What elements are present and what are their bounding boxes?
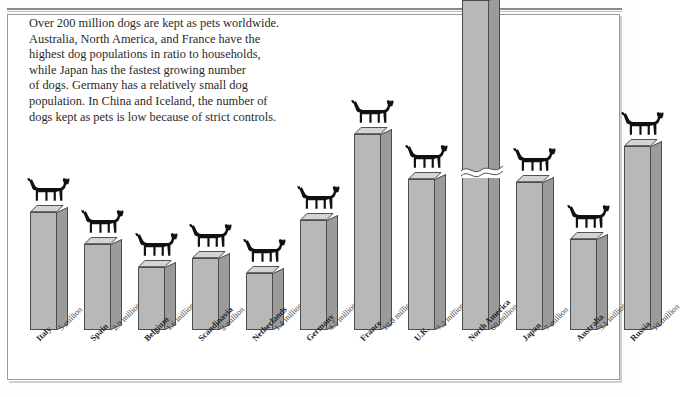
bar-side-face (435, 174, 446, 330)
dog-silhouette-svg (620, 112, 664, 139)
chart-title: DOG OWNERSHIP WORLDWIDE (0, 0, 636, 4)
dog-icon (242, 239, 286, 266)
dog-silhouette-svg (80, 210, 124, 237)
title-rule-thin (7, 11, 622, 12)
dog-silhouette-svg (566, 205, 610, 232)
bar-front-face (300, 220, 327, 330)
dog-icon (512, 148, 556, 175)
bar-front-face (624, 146, 651, 330)
chart-title-clip: DOG OWNERSHIP WORLDWIDE (0, 0, 636, 7)
dog-icon (26, 178, 70, 205)
dog-icon (296, 186, 340, 213)
frame-shadow-right (620, 16, 622, 382)
bar-side-face (381, 129, 392, 330)
title-rule (7, 8, 622, 10)
dog-silhouette-svg (350, 100, 394, 127)
bar-front-face (354, 134, 381, 330)
dog-silhouette-svg (26, 178, 70, 205)
bar-front-face (84, 244, 111, 330)
dog-silhouette-svg (404, 145, 448, 172)
dog-silhouette-svg (242, 239, 286, 266)
bar-side-face (543, 177, 554, 330)
dog-silhouette-svg (134, 233, 178, 260)
dog-silhouette-svg (296, 186, 340, 213)
bar-front-face (516, 182, 543, 330)
dog-icon (566, 205, 610, 232)
bar-side-face (651, 141, 662, 330)
dog-icon (620, 112, 664, 139)
dog-icon (80, 210, 124, 237)
bar-chart: Italy5 millionSpain2.9 millionBelgium1.6… (8, 15, 619, 379)
frame-shadow-bottom (9, 381, 622, 383)
bar-front-face (30, 212, 57, 330)
dog-icon (350, 100, 394, 127)
axis-break-marker (461, 162, 501, 175)
bar-side-face (57, 207, 68, 330)
dog-icon (188, 224, 232, 251)
dog-icon (404, 145, 448, 172)
dog-icon (134, 233, 178, 260)
dog-silhouette-svg (188, 224, 232, 251)
dog-silhouette-svg (512, 148, 556, 175)
bar-front-face (408, 179, 435, 330)
